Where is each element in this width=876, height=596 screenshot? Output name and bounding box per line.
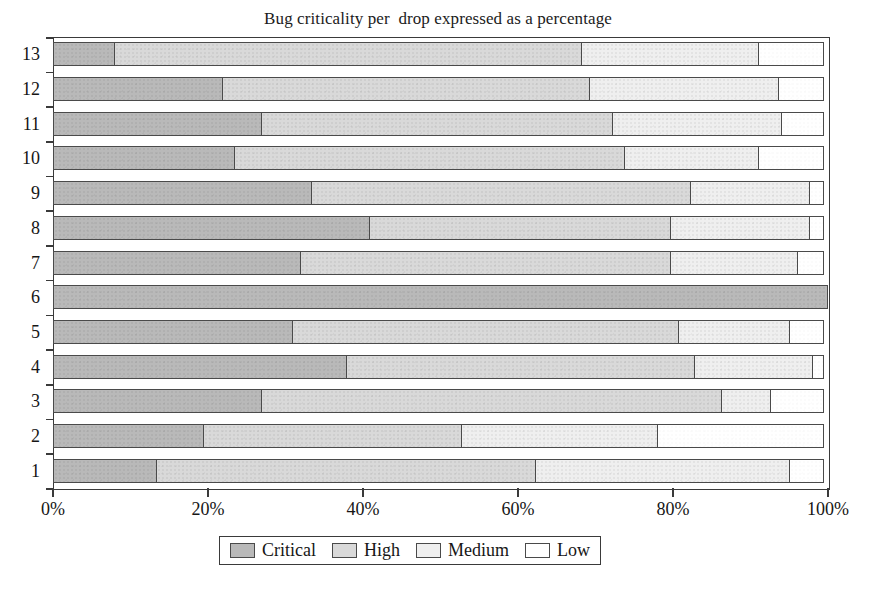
legend-swatch-high-icon <box>332 543 357 558</box>
bar-segment-critical[interactable] <box>53 146 235 170</box>
y-axis-label-10: 10 <box>22 149 40 167</box>
legend-item-critical[interactable]: Critical <box>230 541 316 559</box>
x-axis: 0%20%40%60%80%100% <box>53 488 828 528</box>
bar-segment-high[interactable] <box>261 389 722 413</box>
y-axis-label-12: 12 <box>22 80 40 98</box>
bar-segment-critical[interactable] <box>53 181 313 205</box>
y-axis-label-7: 7 <box>31 254 40 272</box>
x-axis-label-100: 100% <box>807 499 849 520</box>
legend-label: High <box>364 541 400 559</box>
bar-segment-low[interactable] <box>770 389 824 413</box>
bar-row-7[interactable] <box>53 251 824 275</box>
bar-row-3[interactable] <box>53 389 824 413</box>
bar-row-6[interactable] <box>53 285 828 309</box>
bar-segment-medium[interactable] <box>624 146 760 170</box>
bar-row-12[interactable] <box>53 77 824 101</box>
legend-label: Critical <box>262 541 316 559</box>
bar-segment-low[interactable] <box>778 77 825 101</box>
bar-segment-medium[interactable] <box>670 251 798 275</box>
chart-title: Bug criticality per drop expressed as a … <box>0 9 876 29</box>
bar-segment-low[interactable] <box>789 320 824 344</box>
legend-item-high[interactable]: High <box>332 541 400 559</box>
bar-segment-medium[interactable] <box>670 216 810 240</box>
bar-segment-high[interactable] <box>311 181 691 205</box>
legend-item-low[interactable]: Low <box>525 541 590 559</box>
legend-label: Low <box>557 541 590 559</box>
legend-swatch-low-icon <box>525 543 550 558</box>
bar-segment-high[interactable] <box>346 355 695 379</box>
bar-segment-medium[interactable] <box>690 181 810 205</box>
legend-item-medium[interactable]: Medium <box>416 541 509 559</box>
bar-row-8[interactable] <box>53 216 824 240</box>
bar-segment-low[interactable] <box>812 355 824 379</box>
bar-row-9[interactable] <box>53 181 824 205</box>
y-axis-label-13: 13 <box>22 45 40 63</box>
bar-segment-critical[interactable] <box>53 251 301 275</box>
y-axis-label-3: 3 <box>31 392 40 410</box>
bar-row-10[interactable] <box>53 146 824 170</box>
bar-segment-critical[interactable] <box>53 216 371 240</box>
bar-segment-low[interactable] <box>781 112 824 136</box>
bar-segment-critical[interactable] <box>53 77 224 101</box>
bar-row-5[interactable] <box>53 320 824 344</box>
bar-row-13[interactable] <box>53 42 824 66</box>
bar-segment-medium[interactable] <box>589 77 779 101</box>
x-axis-tick <box>827 488 829 497</box>
bar-segment-medium[interactable] <box>612 112 783 136</box>
bar-segment-high[interactable] <box>261 112 614 136</box>
legend-label: Medium <box>448 541 509 559</box>
bar-segment-high[interactable] <box>234 146 625 170</box>
bar-segment-high[interactable] <box>156 459 536 483</box>
bar-segment-high[interactable] <box>300 251 672 275</box>
x-axis-tick <box>517 488 519 497</box>
bar-row-2[interactable] <box>53 424 824 448</box>
bar-segment-medium[interactable] <box>721 389 771 413</box>
bar-segment-low[interactable] <box>809 181 825 205</box>
y-axis-label-1: 1 <box>31 462 40 480</box>
y-axis-label-4: 4 <box>31 358 40 376</box>
bar-row-4[interactable] <box>53 355 824 379</box>
chart-legend: CriticalHighMediumLow <box>219 536 601 565</box>
x-axis-label-40: 40% <box>347 499 380 520</box>
bar-segment-high[interactable] <box>222 77 590 101</box>
y-axis-label-8: 8 <box>31 219 40 237</box>
bar-segment-critical[interactable] <box>53 459 158 483</box>
bar-segment-medium[interactable] <box>694 355 814 379</box>
bar-row-1[interactable] <box>53 459 824 483</box>
bar-segment-high[interactable] <box>114 42 583 66</box>
bar-segment-medium[interactable] <box>535 459 791 483</box>
bar-segment-low[interactable] <box>758 146 824 170</box>
bar-segment-low[interactable] <box>758 42 824 66</box>
bar-segment-low[interactable] <box>809 216 825 240</box>
x-axis-tick <box>362 488 364 497</box>
bar-row-11[interactable] <box>53 112 824 136</box>
bar-segment-critical[interactable] <box>53 112 262 136</box>
x-axis-label-20: 20% <box>192 499 225 520</box>
y-axis-label-9: 9 <box>31 184 40 202</box>
legend-swatch-medium-icon <box>416 543 441 558</box>
y-axis-label-6: 6 <box>31 288 40 306</box>
bar-segment-medium[interactable] <box>461 424 659 448</box>
bar-segment-high[interactable] <box>292 320 680 344</box>
bar-segment-medium[interactable] <box>678 320 790 344</box>
y-axis-label-2: 2 <box>31 427 40 445</box>
bar-segment-high[interactable] <box>203 424 463 448</box>
x-axis-label-80: 80% <box>657 499 690 520</box>
bar-segment-critical[interactable] <box>53 42 115 66</box>
x-axis-tick <box>52 488 54 497</box>
bar-segment-critical[interactable] <box>53 355 348 379</box>
bar-segment-low[interactable] <box>797 251 824 275</box>
bar-segment-critical[interactable] <box>53 285 828 309</box>
bar-segment-high[interactable] <box>369 216 671 240</box>
bar-segment-critical[interactable] <box>53 424 204 448</box>
bars-layer <box>53 37 828 488</box>
y-axis: 12345678910111213 <box>0 37 47 488</box>
bar-segment-medium[interactable] <box>581 42 759 66</box>
bar-segment-low[interactable] <box>657 424 824 448</box>
bar-segment-critical[interactable] <box>53 389 262 413</box>
legend-swatch-critical-icon <box>230 543 255 558</box>
x-axis-tick <box>672 488 674 497</box>
bar-segment-critical[interactable] <box>53 320 293 344</box>
bar-segment-low[interactable] <box>789 459 824 483</box>
x-axis-label-60: 60% <box>502 499 535 520</box>
